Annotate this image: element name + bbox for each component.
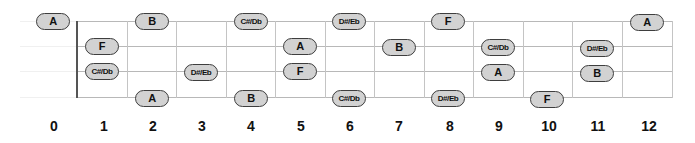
- fret-number-0: 0: [39, 118, 69, 134]
- fret-number-12: 12: [634, 118, 664, 134]
- nut: [76, 21, 78, 98]
- note-marker: C#/Db: [234, 13, 268, 30]
- fret-number-4: 4: [236, 118, 266, 134]
- fret-number-11: 11: [583, 118, 613, 134]
- note-marker: C#/Db: [85, 63, 119, 80]
- fret-wire-11: [622, 21, 623, 98]
- fret-wire-9: [523, 21, 524, 98]
- fret-number-8: 8: [435, 118, 465, 134]
- fret-wire-8: [473, 21, 474, 98]
- fret-number-7: 7: [384, 118, 414, 134]
- fret-number-2: 2: [138, 118, 168, 134]
- fret-number-5: 5: [286, 118, 316, 134]
- note-marker: F: [431, 13, 465, 30]
- note-marker: A: [36, 13, 70, 30]
- note-marker: D#/Eb: [184, 64, 218, 81]
- note-marker: F: [85, 38, 119, 55]
- note-marker: C#/Db: [481, 39, 515, 56]
- fret-wire-7: [424, 21, 425, 98]
- fret-wire-6: [374, 21, 375, 98]
- note-marker: A: [283, 38, 317, 55]
- note-marker: F: [530, 91, 564, 108]
- note-marker: B: [382, 39, 416, 56]
- fret-wire-2: [176, 21, 177, 98]
- note-marker: B: [234, 90, 268, 107]
- fret-wire-12: [672, 21, 673, 98]
- fret-number-9: 9: [484, 118, 514, 134]
- note-marker: A: [630, 14, 664, 31]
- fret-wire-3: [226, 21, 227, 98]
- fret-wire-5: [325, 21, 326, 98]
- fretboard-diagram: A F C#/Db B A D#/Eb C#/Db B A F D#/Eb C#…: [0, 0, 695, 143]
- fret-wire-10: [572, 21, 573, 98]
- open-string-guide-3: [20, 71, 77, 72]
- fret-number-3: 3: [187, 118, 217, 134]
- open-string-guide-2: [20, 46, 77, 47]
- fret-number-6: 6: [335, 118, 365, 134]
- fret-wire-4: [275, 21, 276, 98]
- note-marker: D#/Eb: [580, 40, 614, 57]
- note-marker: A: [481, 64, 515, 81]
- open-string-guide-4: [20, 97, 77, 98]
- note-marker: D#/Eb: [431, 90, 465, 107]
- note-marker: C#/Db: [332, 90, 366, 107]
- note-marker: B: [580, 65, 614, 82]
- note-marker: F: [283, 63, 317, 80]
- fret-number-1: 1: [89, 118, 119, 134]
- note-marker: B: [135, 13, 169, 30]
- fret-number-10: 10: [534, 118, 564, 134]
- note-marker: D#/Eb: [332, 13, 366, 30]
- fret-wire-1: [127, 21, 128, 98]
- note-marker: A: [135, 90, 169, 107]
